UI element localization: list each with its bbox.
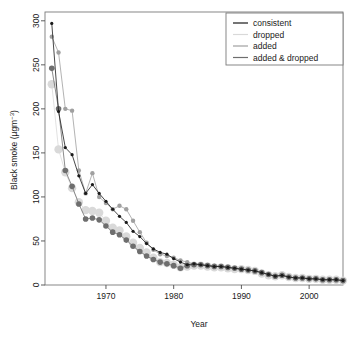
data-point bbox=[267, 273, 270, 276]
chart-figure: 050100150200250300 1970198019902000 cons… bbox=[0, 0, 355, 340]
data-point bbox=[294, 276, 297, 279]
data-point bbox=[219, 265, 222, 268]
data-point bbox=[301, 276, 304, 279]
data-point bbox=[123, 237, 129, 243]
data-point bbox=[76, 201, 82, 207]
legend-label: added bbox=[253, 41, 277, 51]
data-point bbox=[96, 217, 102, 223]
data-point bbox=[125, 221, 128, 224]
data-point bbox=[124, 207, 128, 211]
data-point bbox=[213, 265, 216, 268]
data-point bbox=[64, 146, 67, 149]
legend-label: dropped bbox=[253, 30, 284, 40]
data-point bbox=[321, 278, 324, 281]
data-point bbox=[280, 274, 283, 277]
data-point bbox=[206, 264, 209, 267]
data-point bbox=[164, 261, 170, 267]
data-point bbox=[70, 153, 73, 156]
x-tick-label: 1970 bbox=[96, 291, 115, 301]
data-point bbox=[50, 34, 54, 38]
data-point bbox=[199, 263, 202, 266]
data-point bbox=[63, 168, 69, 174]
data-point bbox=[130, 243, 136, 249]
data-point bbox=[56, 50, 60, 54]
data-point bbox=[145, 242, 148, 245]
data-point bbox=[104, 200, 107, 203]
data-point bbox=[137, 249, 143, 255]
data-point bbox=[159, 251, 162, 254]
x-tick-label: 1990 bbox=[232, 291, 251, 301]
data-point bbox=[131, 219, 135, 223]
y-axis-title-tail: ) bbox=[9, 110, 19, 113]
data-point bbox=[49, 66, 55, 72]
data-point bbox=[144, 253, 150, 259]
y-axis-title: Black smoke (µgm−3) bbox=[9, 110, 19, 190]
data-point bbox=[233, 267, 236, 270]
y-tick-label: 0 bbox=[31, 282, 41, 287]
data-point bbox=[178, 265, 184, 271]
data-point bbox=[172, 257, 175, 260]
y-axis-title-main: Black smoke (µgm bbox=[9, 120, 19, 190]
legend-label: added & dropped bbox=[253, 53, 318, 63]
data-point bbox=[165, 253, 168, 256]
x-axis-title: Year bbox=[190, 319, 207, 329]
data-point bbox=[138, 235, 141, 238]
data-point bbox=[70, 108, 74, 112]
black-smoke-line-chart: 050100150200250300 1970198019902000 cons… bbox=[0, 0, 355, 340]
data-point bbox=[253, 269, 256, 272]
data-point bbox=[50, 22, 53, 25]
data-point bbox=[192, 262, 195, 265]
data-point bbox=[247, 268, 250, 271]
data-point bbox=[69, 184, 75, 190]
data-point bbox=[151, 257, 157, 263]
data-point bbox=[328, 278, 331, 281]
data-point bbox=[157, 259, 163, 265]
data-point bbox=[308, 277, 311, 280]
y-tick-label: 100 bbox=[31, 190, 41, 204]
data-point bbox=[287, 275, 290, 278]
data-point bbox=[111, 208, 114, 211]
legend-label: consistent bbox=[253, 18, 292, 28]
y-tick-label: 250 bbox=[31, 57, 41, 71]
data-point bbox=[77, 174, 80, 177]
data-point bbox=[341, 279, 344, 282]
data-point bbox=[110, 229, 116, 235]
data-point bbox=[171, 263, 177, 269]
data-point bbox=[186, 263, 189, 266]
data-point bbox=[117, 204, 121, 208]
data-point bbox=[90, 215, 96, 221]
data-point bbox=[90, 171, 94, 175]
chart-legend: consistentdroppedaddedadded & dropped bbox=[226, 13, 343, 65]
x-tick-label: 2000 bbox=[300, 291, 319, 301]
data-point bbox=[226, 266, 229, 269]
x-tick-label: 1980 bbox=[164, 291, 183, 301]
data-point bbox=[91, 183, 94, 186]
y-tick-label: 50 bbox=[31, 236, 41, 246]
data-point bbox=[179, 261, 182, 264]
svg-text:Black smoke (µgm−3): Black smoke (µgm−3) bbox=[9, 110, 19, 190]
data-point bbox=[314, 277, 317, 280]
data-point bbox=[131, 230, 134, 233]
data-point bbox=[118, 215, 121, 218]
data-point bbox=[83, 216, 89, 222]
data-point bbox=[95, 209, 103, 217]
y-tick-label: 300 bbox=[31, 13, 41, 27]
data-point bbox=[117, 232, 123, 238]
data-point bbox=[335, 278, 338, 281]
data-point bbox=[98, 192, 101, 195]
data-point bbox=[54, 145, 62, 153]
data-point bbox=[63, 107, 67, 111]
data-point bbox=[240, 268, 243, 271]
data-point bbox=[84, 192, 87, 195]
y-tick-label: 150 bbox=[31, 146, 41, 160]
y-tick-label: 200 bbox=[31, 102, 41, 116]
data-point bbox=[274, 275, 277, 278]
data-point bbox=[260, 271, 263, 274]
data-point bbox=[103, 223, 109, 229]
data-point bbox=[138, 230, 142, 234]
data-point bbox=[57, 110, 60, 113]
data-point bbox=[152, 247, 155, 250]
